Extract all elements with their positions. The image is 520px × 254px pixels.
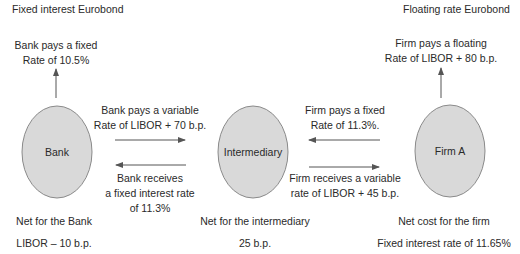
firm-receives-line1: Firm receives a variable [285, 171, 405, 186]
net-bank: Net for the Bank LIBOR – 10 b.p. [4, 214, 104, 251]
fixed-eurobond-title: Fixed interest Eurobond [12, 2, 123, 17]
net-intermediary-label: Net for the intermediary [190, 214, 320, 229]
net-intermediary: Net for the intermediary 25 b.p. [190, 214, 320, 251]
net-firm-label: Net cost for the firm [374, 214, 514, 229]
bank-node-label: Bank [22, 146, 92, 158]
bank-eurobond-label: Bank pays a fixed Rate of 10.5% [6, 38, 106, 68]
firm-receives-line2: rate of LIBOR + 45 b.p. [285, 186, 405, 201]
bank-pays-variable-line2: Rate of LIBOR + 70 b.p. [90, 118, 210, 133]
net-firm-value: Fixed interest rate of 11.65% [374, 236, 514, 251]
net-intermediary-value: 25 b.p. [190, 236, 320, 251]
firm-node-label: Firm A [415, 145, 485, 157]
bank-eurobond-line2: Rate of 10.5% [6, 53, 106, 68]
intermediary-node-label: Intermediary [213, 146, 293, 158]
bank-receives-line1: Bank receives [90, 171, 210, 186]
floating-eurobond-title: Floating rate Eurobond [403, 2, 510, 17]
firm-pays-fixed-line2: Rate of 11.3%. [295, 118, 395, 133]
firm-eurobond-line2: Rate of LIBOR + 80 b.p. [381, 51, 501, 66]
firm-pays-fixed-line1: Firm pays a fixed [295, 103, 395, 118]
bank-to-intermediary-label: Bank pays a variable Rate of LIBOR + 70 … [90, 103, 210, 133]
net-firm: Net cost for the firm Fixed interest rat… [374, 214, 514, 251]
net-bank-label: Net for the Bank [4, 214, 104, 229]
intermediary-to-bank-label: Bank receives a fixed interest rate of 1… [90, 171, 210, 216]
bank-pays-variable-line1: Bank pays a variable [90, 103, 210, 118]
intermediary-to-firm-label: Firm receives a variable rate of LIBOR +… [285, 171, 405, 201]
firm-eurobond-label: Firm pays a floating Rate of LIBOR + 80 … [381, 36, 501, 66]
bank-receives-line2: a fixed interest rate [90, 186, 210, 201]
bank-eurobond-line1: Bank pays a fixed [6, 38, 106, 53]
firm-eurobond-line1: Firm pays a floating [381, 36, 501, 51]
firm-to-intermediary-label: Firm pays a fixed Rate of 11.3%. [295, 103, 395, 133]
net-bank-value: LIBOR – 10 b.p. [4, 236, 104, 251]
